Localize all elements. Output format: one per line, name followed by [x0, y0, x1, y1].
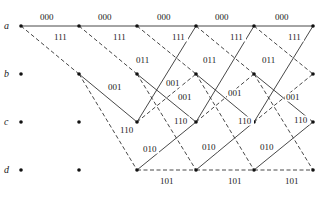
trellis-node	[311, 72, 315, 76]
trellis-node	[135, 24, 139, 28]
trellis-node	[19, 24, 23, 28]
edge-label: 110	[174, 116, 188, 126]
trellis-node	[77, 24, 81, 28]
trellis-node	[135, 168, 139, 172]
edge-label: 000	[40, 12, 54, 22]
trellis-edge-solid	[254, 26, 313, 122]
edge-label: 001	[286, 92, 300, 102]
state-label-d: d	[4, 164, 10, 175]
edge-label: 111	[230, 32, 243, 42]
trellis-edge-dashed	[254, 26, 313, 74]
trellis-node	[19, 72, 23, 76]
trellis-node	[77, 120, 81, 124]
trellis-node	[252, 72, 256, 76]
edge-label: 011	[203, 55, 216, 65]
edge-label: 001	[166, 78, 180, 88]
trellis-canvas: abcd000000000000000111111111111111011011…	[0, 0, 325, 197]
edge-label: 101	[228, 176, 242, 186]
state-label-c: c	[4, 116, 9, 127]
edge-label: 111	[288, 32, 301, 42]
edge-label: 000	[275, 12, 289, 22]
trellis-node	[135, 72, 139, 76]
trellis-node	[77, 168, 81, 172]
state-label-a: a	[4, 20, 9, 31]
edge-label: 011	[136, 55, 149, 65]
edge-label: 101	[285, 176, 299, 186]
trellis-node	[77, 72, 81, 76]
trellis-node	[311, 120, 315, 124]
trellis-node	[19, 120, 23, 124]
edge-label: 110	[238, 116, 252, 126]
edge-label: 010	[260, 142, 274, 152]
edge-label: 011	[262, 55, 275, 65]
edge-label: 111	[172, 32, 185, 42]
trellis-node	[194, 168, 198, 172]
edge-label: 111	[54, 32, 67, 42]
trellis-node	[19, 168, 23, 172]
state-label-b: b	[4, 68, 9, 79]
trellis-node	[194, 120, 198, 124]
trellis-node	[194, 24, 198, 28]
trellis-node	[252, 24, 256, 28]
edge-label: 001	[228, 88, 242, 98]
trellis-node	[194, 72, 198, 76]
edge-label: 001	[178, 92, 192, 102]
edge-label: 111	[113, 32, 126, 42]
trellis-node	[252, 168, 256, 172]
trellis-node	[135, 120, 139, 124]
edge-label: 101	[160, 176, 174, 186]
edge-label: 001	[108, 82, 122, 92]
edge-label: 010	[202, 142, 216, 152]
edge-label: 000	[157, 12, 171, 22]
edge-label: 000	[98, 12, 112, 22]
trellis-node	[311, 24, 315, 28]
edge-label: 010	[143, 144, 157, 154]
trellis-node	[311, 168, 315, 172]
trellis-edge-dashed	[21, 26, 79, 74]
edge-label: 110	[294, 115, 308, 125]
edge-label: 000	[215, 12, 229, 22]
trellis-diagram: abcd000000000000000111111111111111011011…	[0, 0, 325, 197]
edge-label: 110	[120, 125, 134, 135]
